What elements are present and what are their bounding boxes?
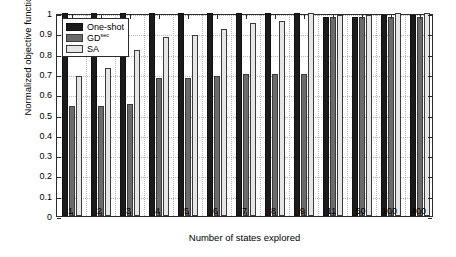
bar-sa xyxy=(221,29,227,216)
bar-gd xyxy=(330,17,336,216)
y-tick-mark-right xyxy=(428,198,432,199)
bar-one-shot xyxy=(352,17,358,216)
x-tick-mark-top xyxy=(362,15,363,19)
y-tick-mark-right xyxy=(428,76,432,77)
bar-gd xyxy=(417,17,423,216)
legend-swatch xyxy=(66,34,83,42)
y-tick-mark-right xyxy=(428,157,432,158)
bar-sa xyxy=(134,50,140,216)
bar-sa xyxy=(395,13,401,216)
y-tick-mark-right xyxy=(428,137,432,138)
bar-gd xyxy=(243,74,249,216)
bar-gd xyxy=(272,74,278,216)
legend-label-superscript: sec xyxy=(101,32,110,38)
y-tick-mark xyxy=(57,76,61,77)
y-tick-label: 0.7 xyxy=(10,70,52,80)
y-tick-mark xyxy=(57,15,61,16)
bar-one-shot xyxy=(236,13,242,216)
bar-sa xyxy=(192,35,198,216)
legend-swatch xyxy=(66,45,83,53)
x-tick-mark-top xyxy=(391,15,392,19)
y-tick-label: 0.5 xyxy=(10,111,52,121)
bar-group xyxy=(318,15,347,216)
y-tick-mark xyxy=(57,157,61,158)
x-tick-mark-top xyxy=(188,15,189,19)
legend-item: GDsec xyxy=(66,32,124,43)
bar-one-shot xyxy=(410,15,416,216)
bar-group xyxy=(173,15,202,216)
x-tick-mark-top xyxy=(420,15,421,19)
y-tick-mark-right xyxy=(428,218,432,219)
bar-group xyxy=(289,15,318,216)
y-tick-mark xyxy=(57,56,61,57)
y-tick-mark xyxy=(57,218,61,219)
bar-sa xyxy=(105,68,111,216)
bar-group xyxy=(231,15,260,216)
y-tick-mark xyxy=(57,117,61,118)
legend-item: One-shot xyxy=(66,21,124,32)
bar-sa xyxy=(279,21,285,216)
bar-group xyxy=(376,15,405,216)
y-tick-label: 0.4 xyxy=(10,131,52,141)
bar-sa xyxy=(163,37,169,216)
bar-group xyxy=(144,15,173,216)
bar-one-shot xyxy=(381,15,387,216)
legend-item: SA xyxy=(66,43,124,54)
x-tick-mark-top xyxy=(304,15,305,19)
y-tick-label: 0.9 xyxy=(10,29,52,39)
x-tick-mark-top xyxy=(333,15,334,19)
y-tick-mark-right xyxy=(428,15,432,16)
y-tick-mark-right xyxy=(428,177,432,178)
bar-one-shot xyxy=(294,13,300,216)
y-tick-mark xyxy=(57,35,61,36)
legend-label: One-shot xyxy=(87,22,124,32)
bar-one-shot xyxy=(178,13,184,216)
bar-one-shot xyxy=(149,13,155,216)
y-tick-mark-right xyxy=(428,35,432,36)
y-tick-mark xyxy=(57,137,61,138)
legend-label: GDsec xyxy=(87,32,109,43)
bar-chart-figure: Normalized objective function 00.10.20.3… xyxy=(0,0,456,257)
bar-gd xyxy=(69,106,75,216)
y-tick-mark xyxy=(57,177,61,178)
bar-sa xyxy=(424,13,430,216)
bar-one-shot xyxy=(207,13,213,216)
bar-group xyxy=(260,15,289,216)
x-tick-mark-top xyxy=(217,15,218,19)
x-tick-mark-top xyxy=(159,15,160,19)
y-tick-mark-right xyxy=(428,96,432,97)
y-tick-mark xyxy=(57,198,61,199)
bar-one-shot xyxy=(323,17,329,216)
bar-sa xyxy=(308,13,314,216)
x-tick-label: 400 xyxy=(399,206,439,216)
y-tick-mark-right xyxy=(428,117,432,118)
bar-gd xyxy=(98,106,104,216)
x-tick-mark-top xyxy=(130,15,131,19)
bar-sa xyxy=(76,76,82,216)
x-axis-label: Number of states explored xyxy=(56,232,433,243)
x-tick-mark-top xyxy=(275,15,276,19)
bar-gd xyxy=(301,74,307,216)
bar-gd xyxy=(156,78,162,216)
y-tick-label: 1 xyxy=(10,9,52,19)
bar-gd xyxy=(388,17,394,216)
y-tick-label: 0.1 xyxy=(10,192,52,202)
bar-group xyxy=(202,15,231,216)
bar-sa xyxy=(250,23,256,216)
bar-group xyxy=(405,15,434,216)
y-tick-label: 0.8 xyxy=(10,50,52,60)
bar-gd xyxy=(127,104,133,216)
legend-label: SA xyxy=(87,44,99,54)
y-tick-mark xyxy=(57,96,61,97)
bar-sa xyxy=(366,15,372,216)
y-tick-label: 0.6 xyxy=(10,90,52,100)
y-tick-mark-right xyxy=(428,56,432,57)
y-tick-label: 0.3 xyxy=(10,151,52,161)
y-tick-label: 0.2 xyxy=(10,171,52,181)
chart-legend: One-shotGDsecSA xyxy=(62,18,129,57)
bar-gd xyxy=(185,78,191,216)
bar-gd xyxy=(359,17,365,216)
x-tick-mark-top xyxy=(246,15,247,19)
legend-swatch xyxy=(66,23,83,31)
bar-sa xyxy=(337,15,343,216)
